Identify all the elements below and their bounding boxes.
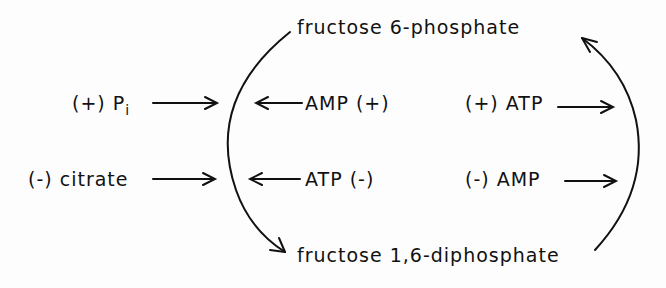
- atp-activator-reverse-label: (+) ATP: [465, 94, 543, 113]
- atp-plus-arrow-icon: [558, 101, 613, 113]
- pi-name: P: [113, 92, 125, 114]
- pi-sign: (+): [72, 92, 106, 114]
- amp-minus-arrow-icon: [565, 175, 616, 187]
- citrate-arrow-icon: [153, 173, 215, 185]
- forward-reaction-arc: [228, 32, 290, 252]
- citrate-sign: (-): [28, 168, 53, 190]
- reverse-reaction-arc: [582, 38, 639, 250]
- amp-activator-label: AMP (+): [305, 94, 390, 113]
- pi-subscript: i: [125, 102, 130, 118]
- pi-effector-label: (+) Pi: [72, 94, 130, 113]
- fructose-1-6-diphosphate-label: fructose 1,6-diphosphate: [297, 246, 560, 265]
- amp-plus-arrow-icon: [256, 97, 302, 109]
- atp-inhibitor-label: ATP (-): [305, 170, 374, 189]
- citrate-name: citrate: [60, 168, 129, 190]
- fructose-6-phosphate-label: fructose 6-phosphate: [297, 18, 520, 37]
- pi-arrow-icon: [153, 97, 217, 109]
- amp-inhibitor-reverse-label: (-) AMP: [465, 170, 541, 189]
- atp-minus-arrow-icon: [250, 173, 300, 185]
- citrate-effector-label: (-) citrate: [28, 170, 129, 189]
